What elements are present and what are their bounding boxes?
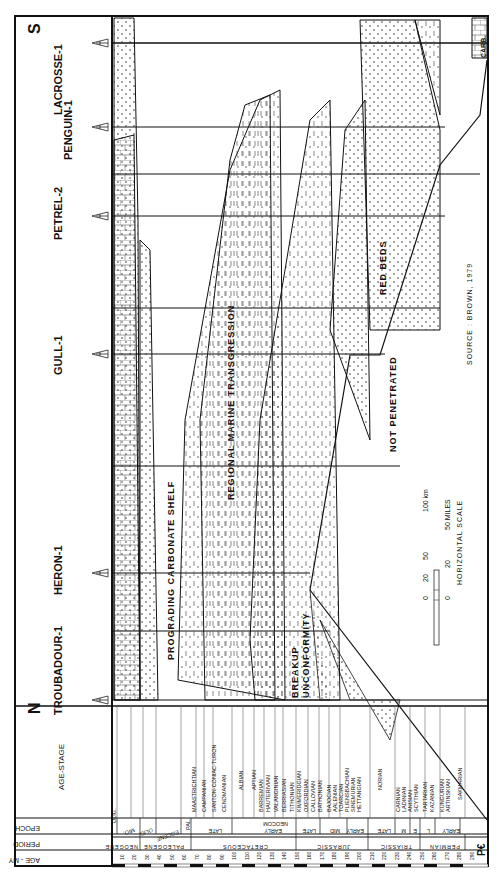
breakup-label: BREAKUP — [290, 646, 300, 698]
svg-text:70: 70 — [194, 854, 200, 860]
svg-text:VALANGINIAN: VALANGINIAN — [273, 775, 279, 812]
svg-text:CALLOVIAN: CALLOVIAN — [310, 781, 316, 812]
svg-text:140: 140 — [281, 851, 287, 860]
svg-text:230: 230 — [394, 851, 400, 860]
svg-text:NEOGENE: NEOGENE — [105, 844, 138, 850]
svg-text:BARREMIAN: BARREMIAN — [258, 779, 264, 812]
period-header: PERIOD — [13, 841, 40, 848]
prograding-shelf-label: PROGRADING CARBONATE SHELF — [166, 481, 176, 660]
svg-text:EOCENE: EOCENE — [156, 829, 180, 843]
svg-text:LATE: LATE — [302, 828, 316, 834]
well-petrel-label: PETREL-2 — [52, 187, 64, 240]
svg-text:KIMMERIDGIAN: KIMMERIDGIAN — [296, 771, 302, 812]
derrick-icon-penguin — [92, 123, 108, 131]
svg-text:BERRIASIAN: BERRIASIAN — [281, 779, 287, 812]
svg-text:250: 250 — [419, 851, 425, 860]
svg-text:0: 0 — [444, 596, 451, 600]
svg-text:40: 40 — [156, 854, 162, 860]
source-citation: SOURCE : BROWN, 1979 — [466, 263, 473, 365]
age-my-header: AGE - MY — [8, 857, 40, 864]
svg-text:190: 190 — [344, 851, 350, 860]
svg-text:CRETACEOUS: CRETACEOUS — [222, 844, 268, 850]
well-heron-label: HERON-1 — [52, 545, 64, 595]
svg-text:OXFORDIAN: OXFORDIAN — [303, 779, 309, 812]
derrick-icon-heron — [92, 569, 108, 577]
svg-text:CAMPANIAN: CAMPANIAN — [201, 780, 207, 812]
carb-label: CARB. — [480, 36, 487, 58]
svg-text:220: 220 — [381, 851, 387, 860]
south-label: S — [26, 23, 43, 34]
svg-text:200: 200 — [356, 851, 362, 860]
svg-text:80: 80 — [206, 854, 212, 860]
svg-text:ALBIAN: ALBIAN — [238, 770, 244, 790]
svg-text:TITHONIAN: TITHONIAN — [289, 782, 295, 812]
period-dividers — [140, 834, 465, 850]
derrick-icon-troubadour — [92, 696, 108, 704]
svg-text:210: 210 — [369, 851, 375, 860]
svg-text:130: 130 — [269, 851, 275, 860]
svg-text:30: 30 — [144, 854, 150, 860]
svg-text:240: 240 — [406, 851, 412, 860]
svg-text:M: M — [401, 828, 406, 834]
svg-text:HORIZONTAL SCALE: HORIZONTAL SCALE — [456, 500, 463, 585]
epoch-header: EPOCH — [15, 825, 40, 832]
svg-text:HETTANGIAN: HETTANGIAN — [356, 777, 362, 812]
svg-text:ARTINSKIAN: ARTINSKIAN — [445, 779, 451, 812]
svg-text:JURASSIC: JURASSIC — [316, 844, 350, 850]
svg-text:0: 0 — [422, 596, 429, 600]
svg-text:LATE: LATE — [377, 828, 391, 834]
svg-text:120: 120 — [256, 851, 262, 860]
svg-text:290: 290 — [469, 851, 475, 860]
svg-text:TARTARIAN: TARTARIAN — [422, 782, 428, 812]
svg-text:EARLY: EARLY — [346, 828, 364, 834]
svg-text:160: 160 — [306, 851, 312, 860]
svg-text:CENOMANIAN: CENOMANIAN — [221, 775, 227, 812]
svg-text:KAZANIAN: KAZANIAN — [429, 784, 435, 812]
svg-text:HAUTERIVIAN: HAUTERIVIAN — [265, 775, 271, 812]
svg-text:150: 150 — [294, 851, 300, 860]
svg-text:170: 170 — [319, 851, 325, 860]
svg-text:APTIAN: APTIAN — [251, 770, 257, 790]
svg-text:PAL.: PAL. — [185, 818, 191, 830]
north-label: N — [26, 702, 43, 714]
age-stage-header: AGE-STAGE — [57, 744, 66, 790]
red-beds-label: RED BEDS — [378, 240, 388, 295]
derrick-icon-petrel — [92, 212, 108, 220]
svg-text:90: 90 — [219, 854, 225, 860]
precambrian-label: P€ — [476, 843, 487, 856]
svg-text:NEOCOM: NEOCOM — [263, 821, 288, 827]
svg-text:MID: MID — [330, 828, 340, 834]
age-tick-labels: 10 20 30 40 50 60 70 80 90 100 110 120 1… — [119, 851, 475, 860]
derrick-icon-gull — [92, 350, 108, 358]
svg-text:20: 20 — [422, 574, 429, 582]
svg-text:280: 280 — [456, 851, 462, 860]
svg-text:50: 50 — [169, 854, 175, 860]
epoch-labels: OLIG. MIO. OLIG. EOCENE PAL. LATE EARLY … — [111, 808, 460, 843]
svg-text:SAKMARIAN: SAKMARIAN — [457, 768, 463, 800]
svg-text:PALEOGENE: PALEOGENE — [143, 844, 184, 850]
svg-text:PERMIAN: PERMIAN — [429, 844, 460, 850]
svg-text:L: L — [427, 828, 430, 834]
marine-transgression-label: REGIONAL MARINE TRANSGRESSION — [226, 305, 236, 500]
period-labels: NEOGENE PALEOGENE CRETACEOUS JURASSIC TR… — [105, 844, 460, 850]
svg-text:20: 20 — [131, 854, 137, 860]
svg-text:110: 110 — [244, 852, 250, 860]
age-scale-bar — [112, 864, 488, 867]
svg-text:SCYTHIAN: SCYTHIAN — [413, 784, 419, 812]
svg-text:10: 10 — [119, 854, 125, 860]
derrick-icons — [92, 39, 108, 704]
svg-text:MIO.: MIO. — [122, 827, 136, 837]
svg-text:180: 180 — [331, 851, 337, 860]
svg-text:50 MILES: 50 MILES — [444, 499, 451, 530]
well-gull-label: GULL-1 — [52, 335, 64, 375]
svg-text:E: E — [413, 828, 417, 834]
unconformity-label: UNCONFORMITY — [301, 613, 311, 699]
svg-text:270: 270 — [444, 851, 450, 860]
svg-text:NORIAN: NORIAN — [377, 769, 383, 790]
svg-text:MAASTRICHTIAN: MAASTRICHTIAN — [191, 767, 197, 812]
svg-text:260: 260 — [431, 851, 437, 860]
svg-text:TRIASSIC: TRIASSIC — [380, 844, 412, 850]
not-penetrated-label: NOT PENETRATED — [388, 356, 398, 452]
svg-text:BATHONIAN: BATHONIAN — [317, 780, 323, 812]
horizontal-scale: 0 20 50 100 km 0 20 50 MILES HORIZONTAL … — [422, 489, 463, 645]
